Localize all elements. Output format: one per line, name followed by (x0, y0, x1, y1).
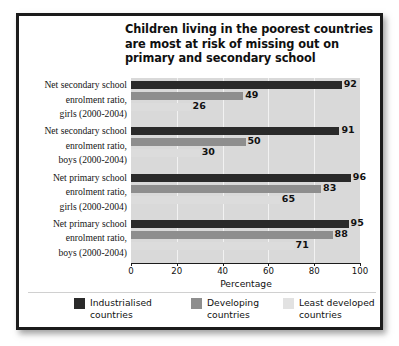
bar-group-net-secondary-boys: 91 50 30 (131, 124, 360, 170)
bar-group-net-primary-boys: 95 88 71 (131, 217, 360, 263)
legend-item-least-developed: Least developed countries (283, 297, 375, 320)
plot-area: 92 49 26 91 50 30 96 83 65 95 88 71 (131, 78, 360, 263)
chart-figure-card: Children living in the poorest countries… (16, 13, 383, 330)
chart-title-line-2: are most at risk of missing out on (125, 37, 377, 52)
x-tick-label-0: 0 (128, 266, 133, 276)
legend-label-line: countries (207, 309, 259, 321)
bar-developing (131, 185, 321, 193)
chart-legend: Industrialised countries Developing coun… (28, 297, 376, 327)
bar-value-developing: 88 (335, 229, 348, 239)
bar-industrialised (131, 174, 351, 182)
y-axis-label-line: enrolment ratio, (19, 139, 127, 154)
bar-least-developed (131, 242, 294, 250)
legend-swatch-developing (191, 298, 202, 309)
bar-value-developing: 83 (323, 183, 336, 193)
y-axis-label-net-primary-girls: Net primary school enrolment ratio, girl… (19, 171, 127, 217)
legend-swatch-industrialised (74, 298, 85, 309)
bar-value-industrialised: 96 (353, 172, 366, 182)
legend-label-least-developed: Least developed countries (299, 297, 375, 320)
x-tick-label-40: 40 (217, 266, 228, 276)
chart-title: Children living in the poorest countries… (125, 22, 377, 66)
bar-value-developing: 50 (248, 136, 261, 146)
chart-title-line-1: Children living in the poorest countries (125, 22, 377, 37)
y-axis-label-line: boys (2000-2004) (19, 246, 127, 261)
legend-label-line: Industrialised (90, 297, 152, 309)
bar-group-net-primary-girls: 96 83 65 (131, 171, 360, 217)
bar-value-least-developed: 30 (202, 147, 215, 157)
bar-least-developed (131, 149, 200, 157)
bar-least-developed (131, 196, 280, 204)
bar-least-developed (131, 103, 191, 111)
chart-title-line-3: primary and secondary school (125, 51, 377, 66)
bar-value-least-developed: 26 (193, 101, 206, 111)
bar-industrialised (131, 220, 349, 228)
y-axis-label-line: enrolment ratio, (19, 185, 127, 200)
bar-value-industrialised: 92 (344, 79, 357, 89)
bar-industrialised (131, 81, 342, 89)
bar-value-least-developed: 65 (282, 194, 295, 204)
y-axis-label-line: girls (2000-2004) (19, 107, 127, 122)
bar-value-developing: 49 (245, 90, 258, 100)
legend-item-industrialised: Industrialised countries (74, 297, 152, 320)
bar-developing (131, 92, 243, 100)
bar-developing (131, 231, 333, 239)
legend-label-developing: Developing countries (207, 297, 259, 320)
bar-developing (131, 138, 246, 146)
x-axis-line (131, 263, 361, 264)
y-axis-label-line: Net primary school (19, 171, 127, 186)
legend-label-line: Developing (207, 297, 259, 309)
bar-group-net-secondary-girls: 92 49 26 (131, 78, 360, 124)
y-axis-label-line: enrolment ratio, (19, 93, 127, 108)
x-axis-title: Percentage (131, 278, 361, 289)
x-tick-label-20: 20 (171, 266, 182, 276)
bar-value-industrialised: 91 (341, 125, 354, 135)
legend-divider (28, 292, 376, 293)
y-axis-label-line: Net secondary school (19, 124, 127, 139)
x-tick-label-100: 100 (352, 266, 368, 276)
y-axis-label-net-primary-boys: Net primary school enrolment ratio, boys… (19, 217, 127, 263)
y-axis-label-line: Net primary school (19, 217, 127, 232)
legend-item-developing: Developing countries (191, 297, 259, 320)
y-axis-label-net-secondary-girls: Net secondary school enrolment ratio, gi… (19, 78, 127, 124)
legend-label-line: countries (299, 309, 375, 321)
bar-value-industrialised: 95 (351, 218, 364, 228)
y-axis-label-line: enrolment ratio, (19, 231, 127, 246)
legend-label-line: countries (90, 309, 152, 321)
legend-label-line: Least developed (299, 297, 375, 309)
y-axis-label-line: Net secondary school (19, 78, 127, 93)
x-tick-label-80: 80 (309, 266, 320, 276)
bar-industrialised (131, 127, 339, 135)
legend-label-industrialised: Industrialised countries (90, 297, 152, 320)
y-axis-label-line: boys (2000-2004) (19, 153, 127, 168)
y-axis-label-net-secondary-boys: Net secondary school enrolment ratio, bo… (19, 124, 127, 170)
x-tick-label-60: 60 (263, 266, 274, 276)
legend-swatch-least-developed (283, 298, 294, 309)
y-axis-label-line: girls (2000-2004) (19, 200, 127, 215)
y-axis-category-labels: Net secondary school enrolment ratio, gi… (19, 78, 129, 263)
bar-value-least-developed: 71 (296, 240, 309, 250)
